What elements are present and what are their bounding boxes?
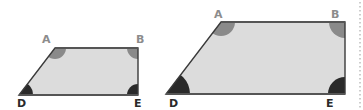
large-label-d: D <box>169 97 178 110</box>
large-label-a: A <box>214 8 223 21</box>
small-label-d: D <box>17 97 26 110</box>
large-label-b: B <box>331 8 339 21</box>
small-trapezoid <box>5 37 149 109</box>
small-label-a: A <box>42 33 51 46</box>
trapezoids-diagram: A B D E A B D E <box>0 0 363 110</box>
small-label-b: B <box>136 33 144 46</box>
small-label-e: E <box>134 97 142 110</box>
large-label-e: E <box>326 97 334 110</box>
large-trapezoid <box>142 6 362 110</box>
